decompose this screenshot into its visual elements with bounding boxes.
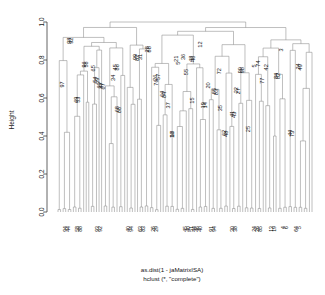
node-label: 53 xyxy=(75,97,81,103)
y-axis-title: Height xyxy=(8,110,16,129)
leaf-label: 40 xyxy=(197,226,203,232)
node-label: 67 xyxy=(100,83,106,89)
node-label: 15 xyxy=(189,97,195,103)
node-label: 57 xyxy=(155,74,161,80)
node-label: 34 xyxy=(110,75,116,81)
node-label: 36 xyxy=(180,54,186,60)
node-label: 56 xyxy=(83,61,89,67)
node-label: 3 xyxy=(278,48,284,51)
y-axis-tick-label: 1.0 xyxy=(38,17,45,26)
node-label: 12 xyxy=(197,41,203,47)
node-label: 77 xyxy=(259,78,265,84)
dendrogram-svg: 0.00.20.40.60.81.0 Height 97989269539656… xyxy=(0,0,325,295)
leaf-label: 94 xyxy=(128,226,134,232)
y-axis-tick-label: 0.2 xyxy=(38,169,45,178)
node-label: 20 xyxy=(205,82,211,88)
node-label: 74 xyxy=(255,60,261,66)
node-label: 55 xyxy=(183,69,189,75)
node-label: 42 xyxy=(263,64,269,70)
node-label: 88 xyxy=(146,46,152,52)
node-label: 76 xyxy=(153,79,159,85)
node-label: 5 xyxy=(175,62,181,65)
node-label: 92 xyxy=(68,38,74,44)
leaf-label: 88 xyxy=(77,226,83,232)
node-label: 27 xyxy=(235,88,241,94)
leaf-label: 83 xyxy=(140,226,146,232)
node-label: 83 xyxy=(213,89,219,95)
node-label: 98 xyxy=(239,67,245,73)
node-label: 97 xyxy=(59,81,65,87)
leaf-label: 92 xyxy=(97,226,103,232)
node-label: 35 xyxy=(217,105,223,111)
dendrogram-plot: 0.00.20.40.60.81.0 Height 97989269539656… xyxy=(0,0,325,295)
node-label: 46 xyxy=(190,56,196,62)
node-label: 37 xyxy=(165,102,171,108)
node-label: 66 xyxy=(116,107,122,113)
node-label: 16 xyxy=(169,132,175,138)
y-axis-tick-label: 0.4 xyxy=(38,131,45,140)
leaf-label: 94 xyxy=(211,226,217,232)
node-label: 21 xyxy=(173,56,179,62)
node-label: 25 xyxy=(245,126,251,132)
leaf-label: 5 xyxy=(296,226,302,229)
node-label: 82 xyxy=(275,73,281,79)
y-axis-tick-label: 0.0 xyxy=(38,207,45,216)
node-label: 43 xyxy=(231,112,237,118)
node-label: 73 xyxy=(289,131,295,137)
leaf-label: 6 xyxy=(283,226,289,229)
leaf-label: 29 xyxy=(153,226,159,232)
node-label: 84 xyxy=(161,92,167,98)
node-label: 48 xyxy=(223,131,229,137)
y-axis-tick-label: 0.6 xyxy=(38,93,45,102)
node-label: 72 xyxy=(216,68,222,74)
node-label: 65 xyxy=(90,65,96,71)
node-label: 86 xyxy=(114,64,120,70)
node-label: 87 xyxy=(134,55,140,61)
node-label: 14 xyxy=(202,102,208,108)
leaf-label: 19 xyxy=(271,226,277,232)
leaf-label: 38 xyxy=(232,226,238,232)
node-label: 49 xyxy=(297,64,303,70)
caption-method: hclust (*, "complete") xyxy=(143,275,200,282)
leaf-label: 85 xyxy=(257,226,263,232)
leaf-label: 44 xyxy=(65,226,71,232)
caption-distance: as.dist(1 - jaMatrixISA) xyxy=(141,266,204,273)
y-axis-tick-label: 0.8 xyxy=(38,55,45,64)
